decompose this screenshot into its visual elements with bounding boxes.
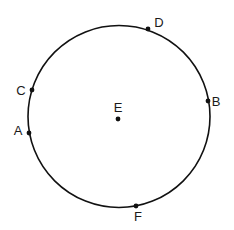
point-dot (206, 99, 211, 104)
circle-diagram: DCBEAF (0, 0, 234, 230)
point-label: B (212, 94, 221, 109)
point-dot (30, 88, 35, 93)
circle (28, 26, 210, 208)
point-dot (27, 131, 32, 136)
point-label: A (14, 123, 23, 138)
point-dot (134, 204, 139, 209)
point-label: C (16, 83, 25, 98)
point-f: F (134, 204, 142, 224)
point-e: E (114, 100, 123, 121)
point-label: F (134, 209, 142, 224)
points-layer: DCBEAF (14, 15, 221, 224)
point-label: E (114, 100, 123, 115)
point-dot (146, 27, 151, 32)
point-dot (116, 117, 121, 122)
point-d: D (146, 15, 164, 31)
point-label: D (154, 15, 163, 30)
point-c: C (16, 83, 34, 98)
